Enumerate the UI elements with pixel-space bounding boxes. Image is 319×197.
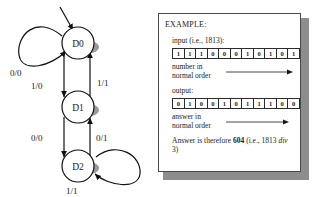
state-label-d0: D0 [72,39,84,49]
input-bit-row: 11100010101 [172,48,300,59]
output-bit-cell: 0 [288,99,299,108]
edge-label-d2-to-d1: 0/1 [96,133,108,143]
output-bit-cell: 1 [265,99,277,108]
edge-label-d0-self: 0/0 [10,68,22,78]
output-bit-cell: 0 [231,99,243,108]
input-bit-cell: 0 [231,49,243,58]
input-bit-cell: 1 [242,49,254,58]
state-label-d1: D1 [72,103,84,113]
state-diagram-svg: D0 D1 D2 0/0 1/0 1/1 0/0 0/1 1/1 [0,0,160,197]
state-label-d2: D2 [72,162,84,172]
output-bit-cell: 1 [254,99,266,108]
input-direction-arrow-icon [225,67,295,77]
output-bit-cell: 0 [173,99,185,108]
answer-suffix-open: (i.e., 1813 [244,136,278,145]
output-bit-cell: 1 [219,99,231,108]
input-bit-cell: 0 [277,49,289,58]
answer-div-keyword: div [278,136,287,145]
edge-label-d2-self: 1/1 [66,186,78,196]
input-bit-cell: 1 [196,49,208,58]
output-bit-cell: 0 [208,99,220,108]
output-label: output: [172,86,295,95]
example-card: EXAMPLE: input (i.e., 1813): 11100010101… [158,13,301,172]
answer-value: 604 [233,136,244,145]
edge-label-d0-to-d1: 1/0 [31,81,43,91]
edge-d2-self [95,150,140,185]
edge-d0-self [19,27,66,66]
output-bit-cell: 0 [277,99,289,108]
input-bit-cell: 1 [185,49,197,58]
edge-label-d1-to-d2: 0/0 [31,133,43,143]
output-bit-row: 01001011100 [172,98,300,109]
input-bit-cell: 1 [173,49,185,58]
answer-statement: Answer is therefore 604 (i.e., 1813 div … [172,136,295,154]
example-title: EXAMPLE: [165,20,295,29]
input-bit-cell: 1 [288,49,299,58]
example-card-body: input (i.e., 1813): 11100010101 number i… [165,36,295,154]
output-bit-cell: 1 [242,99,254,108]
input-label: input (i.e., 1813): [172,36,295,45]
output-bit-cell: 1 [185,99,197,108]
input-bit-cell: 1 [265,49,277,58]
input-bit-cell: 0 [254,49,266,58]
input-bit-cell: 0 [208,49,220,58]
output-caption: answer in normal order [172,113,224,130]
example-panel: EXAMPLE: input (i.e., 1813): 11100010101… [158,13,310,181]
output-caption-block: answer in normal order [172,113,295,130]
answer-prefix: Answer is therefore [172,136,233,145]
output-direction-arrow-icon [225,117,295,127]
state-diagram-panel: D0 D1 D2 0/0 1/0 1/1 0/0 0/1 1/1 [0,0,160,197]
input-caption-block: number in normal order [172,63,295,80]
input-bit-cell: 0 [219,49,231,58]
edge-label-d1-to-d0: 1/1 [97,78,109,88]
answer-suffix-close: 3) [172,145,178,154]
input-caption: number in normal order [172,63,224,80]
start-arrow [60,7,73,30]
output-bit-cell: 0 [196,99,208,108]
